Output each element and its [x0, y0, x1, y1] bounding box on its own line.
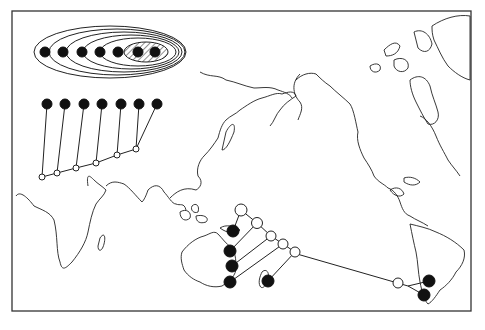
- internal-node: [266, 231, 276, 241]
- taxon-dot: [95, 47, 105, 57]
- inset-cladogram: [39, 99, 162, 180]
- terminal-australia-3: [226, 260, 238, 272]
- internal-node: [290, 247, 300, 257]
- internal-node: [235, 204, 247, 216]
- asia-coast: [170, 92, 296, 198]
- nested-sets-diagram: [34, 26, 186, 78]
- terminal-australia-4: [224, 276, 236, 288]
- greenland-outline: [432, 15, 470, 80]
- hatched-ellipse: [124, 42, 168, 62]
- taxon-dot: [133, 47, 143, 57]
- terminal-australia-1: [227, 225, 239, 237]
- north-america-coast: [296, 73, 428, 226]
- terminal-australia-2: [224, 245, 236, 257]
- taxon-dot: [58, 47, 68, 57]
- map-cladogram: [224, 204, 435, 301]
- internal-node-south-america: [393, 278, 403, 288]
- terminal-south-america-1: [423, 275, 435, 287]
- terminal-south-america-2: [418, 289, 430, 301]
- taxon-dot: [113, 47, 123, 57]
- terminal-new-zealand: [262, 275, 274, 287]
- taxon-dot: [40, 47, 50, 57]
- internal-node: [278, 239, 288, 249]
- taxon-dot: [77, 47, 87, 57]
- africa-outline: [16, 176, 106, 268]
- map-figure: [0, 0, 485, 330]
- taxon-dot: [150, 47, 160, 57]
- coastlines: [16, 15, 470, 304]
- internal-node: [252, 218, 263, 229]
